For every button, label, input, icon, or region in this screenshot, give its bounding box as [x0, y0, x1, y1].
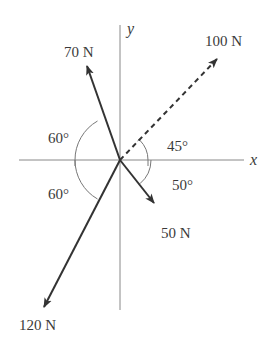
force-label-70n: 70 N [64, 44, 94, 60]
angle-label-70n: 60° [48, 130, 69, 146]
angle-arc-50n [140, 160, 151, 184]
y-axis-label: y [125, 20, 135, 38]
angle-label-120n: 60° [48, 186, 69, 202]
angle-arc-70n [75, 121, 98, 160]
force-label-50n: 50 N [161, 225, 191, 241]
force-diagram: x y 70 N 100 N 50 N 120 N 60° 45° 50° 60… [0, 0, 273, 346]
force-label-100n: 100 N [205, 33, 242, 49]
force-vector-50n [120, 160, 154, 203]
force-label-120n: 120 N [19, 317, 56, 333]
force-vector-120n [44, 160, 120, 307]
angle-arc-100n [140, 140, 148, 160]
angle-label-100n: 45° [167, 138, 188, 154]
x-axis-label: x [249, 151, 257, 168]
angle-label-50n: 50° [172, 177, 193, 193]
angle-arc-120n [75, 160, 98, 199]
force-vector-70n [87, 66, 120, 160]
